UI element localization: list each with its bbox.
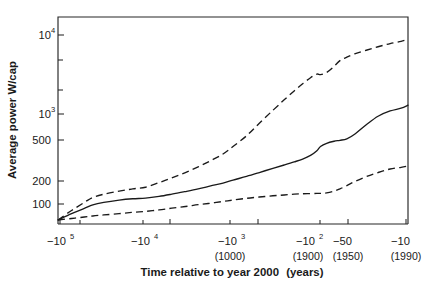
y-axis-title: Average power W/cap — [6, 61, 18, 179]
chart-figure: 10 4 10 3 500 200 100 −10 5 −10 4 −10 3 … — [0, 0, 430, 287]
x-tick-label-1e5: −10 — [47, 235, 66, 247]
x-tick-sublabel-1950: (1950) — [333, 250, 364, 262]
x-tick-label-1e2: −10 — [296, 235, 315, 247]
y-tick-label-200: 200 — [32, 175, 51, 187]
y-tick-label-10000: 10 — [39, 29, 51, 41]
y-tick-label-1000: 10 — [39, 108, 51, 120]
y-tick-exp-1000: 3 — [51, 105, 55, 114]
x-tick-sublabel-1000: (1000) — [215, 250, 246, 262]
x-tick-label-50: −50 — [333, 235, 352, 247]
x-tick-exp-1e3: 3 — [241, 232, 245, 241]
y-tick-exp-10000: 4 — [51, 26, 55, 35]
x-tick-label-1e4: −10 — [131, 235, 150, 247]
x-tick-sublabel-1990: (1990) — [391, 250, 422, 262]
power-per-capita-chart: 10 4 10 3 500 200 100 −10 5 −10 4 −10 3 … — [0, 0, 430, 287]
x-axis-title: Time relative to year 2000 (years) — [141, 266, 324, 278]
x-tick-exp-1e4: 4 — [154, 232, 158, 241]
y-tick-label-100: 100 — [32, 198, 51, 210]
x-tick-label-10: −10 — [391, 235, 410, 247]
x-tick-label-1e3: −10 — [218, 235, 237, 247]
x-tick-exp-1e2: 2 — [319, 232, 323, 241]
x-tick-sublabel-1900: (1900) — [293, 250, 324, 262]
y-tick-label-500: 500 — [32, 134, 51, 146]
x-axis-title-main: Time relative to year 2000 — [141, 266, 279, 278]
x-axis-title-unit: (years) — [286, 266, 324, 278]
x-tick-exp-1e5: 5 — [70, 232, 74, 241]
